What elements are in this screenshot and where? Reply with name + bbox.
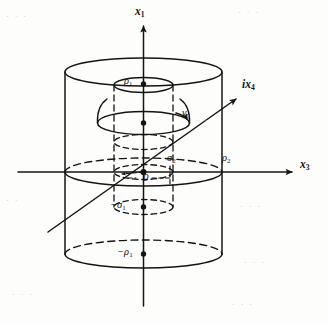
- label-rho1-sub: 1: [129, 80, 132, 87]
- scan-artifact-0: · · ·: [6, 12, 28, 21]
- axis-label-x1-sub: 1: [141, 10, 145, 19]
- point-neg-rho1: [141, 251, 146, 256]
- label-origin: 0: [143, 172, 149, 183]
- scan-artifact-6: · · ·: [12, 290, 34, 299]
- point-neg-sigma1: [141, 204, 146, 209]
- scan-artifact-7: · · ·: [232, 300, 254, 309]
- label-gamma-r: γr: [182, 107, 189, 120]
- scan-artifact-5: · · ·: [244, 258, 266, 267]
- axis-label-ix4-text: ix: [242, 78, 251, 90]
- axis-label-x1: x1: [135, 6, 145, 18]
- label-neg-rho1-sub: 1: [129, 251, 132, 258]
- label-rho1: ρ1: [124, 76, 133, 87]
- label-sigma2: σ2: [167, 153, 176, 164]
- axis-label-x3-sub: 3: [306, 163, 310, 172]
- axis-label-ix4: ix4: [242, 79, 255, 91]
- scan-artifact-3: · ·: [6, 196, 19, 205]
- label-rho2-sub: 2: [227, 157, 230, 164]
- label-neg-sigma1: −σ1: [110, 200, 126, 211]
- axis-label-x3: x3: [300, 159, 310, 171]
- scan-artifact-2: · ·: [196, 116, 209, 125]
- figure-container: x1 x3 ix4 ρ1 γr σ2 ρ2 0 −σ1 −ρ1 · · · · …: [0, 0, 328, 323]
- label-neg-sigma1-sub: 1: [122, 204, 125, 211]
- label-gamma-r-sub: r: [186, 112, 188, 120]
- axis-label-ix4-sub: 4: [251, 83, 255, 92]
- label-rho2: ρ2: [222, 153, 231, 164]
- label-neg-rho1: −ρ1: [117, 247, 133, 258]
- geometry-diagram: [0, 0, 328, 323]
- point-rho1: [141, 81, 146, 86]
- scan-artifact-1: · · ·: [238, 8, 260, 17]
- scan-artifact-4: · · ·: [240, 202, 262, 211]
- point-gamma: [141, 120, 146, 125]
- label-origin-text: 0: [143, 171, 149, 183]
- label-sigma2-sub: 2: [172, 157, 175, 164]
